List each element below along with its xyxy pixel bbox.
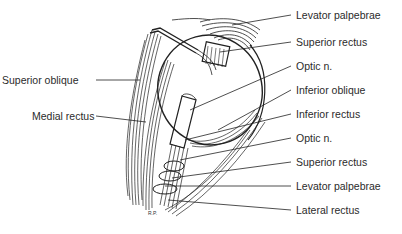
label-superior-oblique: Superior oblique (2, 74, 78, 86)
levator-palpebrae-top-muscle (172, 19, 260, 51)
label-lateral-rectus: Lateral rectus (296, 204, 360, 216)
optic-nerve (170, 96, 196, 148)
label-levator-palpebrae-top: Levator palpebrae (296, 9, 381, 21)
label-optic-n-top: Optic n. (296, 60, 332, 72)
artist-signature: R.P. (148, 210, 157, 216)
label-medial-rectus: Medial rectus (32, 110, 94, 122)
optic-n-bottom-band (164, 161, 184, 171)
label-inferior-rectus: Inferior rectus (296, 108, 360, 120)
levator-bottom-band (153, 184, 177, 194)
label-levator-palpebrae-bottom: Levator palpebrae (296, 180, 381, 192)
label-superior-rectus-bottom: Superior rectus (296, 156, 367, 168)
label-optic-n-bottom: Optic n. (296, 132, 332, 144)
label-inferior-oblique: Inferior oblique (296, 84, 365, 96)
label-superior-rectus-top: Superior rectus (296, 36, 367, 48)
